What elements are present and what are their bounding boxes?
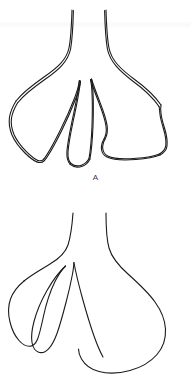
panel-a-left-lobe [9,81,80,163]
panel-b-stem-left [24,213,73,281]
panel-a-right-lobe [91,79,168,160]
figure-panel-b: B [0,195,191,389]
panel-b-right-balloon-lobe [79,213,166,373]
panel-a-label: A [0,174,191,182]
panel-a-stem-right [105,10,161,107]
panel-a-center-lobe [67,79,93,167]
figure-panel-a: A [0,0,191,195]
panel-b-center-divider [74,263,103,358]
figure-page: A [0,0,191,389]
panel-a-drawing [0,0,191,195]
panel-a-stem-left [16,10,73,103]
panel-b-drawing [0,195,191,389]
